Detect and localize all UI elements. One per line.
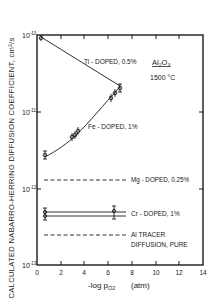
series-fe: [43, 84, 122, 159]
svg-text:6: 6: [106, 269, 110, 276]
mg-label: Mg - DOPED, 0.25%: [131, 176, 189, 184]
al-label-line2: DIFFUSION, PURE: [131, 241, 188, 248]
x-tick-labels: 0 2 4 6 8 10 12 14: [35, 269, 207, 276]
svg-text:2: 2: [59, 269, 63, 276]
y-axis-label: CALCULATED NABARRO-HERRING DIFFUSION COE…: [7, 37, 16, 298]
x-axis-label: -log pO2 (atm): [88, 281, 150, 291]
svg-text:10: 10: [152, 269, 160, 276]
svg-text:10-10: 10-10: [22, 31, 37, 39]
diffusion-coefficient-chart: CALCULATED NABARRO-HERRING DIFFUSION COE…: [0, 0, 218, 307]
series-cr: [43, 206, 126, 220]
material-label: Al₂O₃: [152, 58, 170, 67]
plot-frame: [37, 35, 203, 265]
svg-text:10-13: 10-13: [22, 261, 37, 269]
al-label-line1: Al TRACER: [131, 231, 165, 238]
svg-text:-log pO2: -log pO2: [88, 281, 115, 291]
ti-label: Ti - DOPED, 0.5%: [84, 58, 137, 65]
svg-text:0: 0: [35, 269, 39, 276]
svg-text:10-11: 10-11: [22, 108, 36, 116]
svg-text:8: 8: [130, 269, 134, 276]
svg-text:4: 4: [82, 269, 86, 276]
temperature-label: 1500 °C: [150, 74, 175, 81]
y-tick-labels: 10-10 10-11 10-12 10-13: [22, 31, 37, 269]
svg-text:12: 12: [175, 269, 183, 276]
fe-label: Fe - DOPED, 1%: [88, 123, 138, 130]
svg-text:14: 14: [199, 269, 207, 276]
svg-text:10-12: 10-12: [22, 185, 37, 193]
cr-label: Cr - DOPED, 1%: [131, 210, 180, 217]
svg-text:(atm): (atm): [131, 281, 150, 290]
